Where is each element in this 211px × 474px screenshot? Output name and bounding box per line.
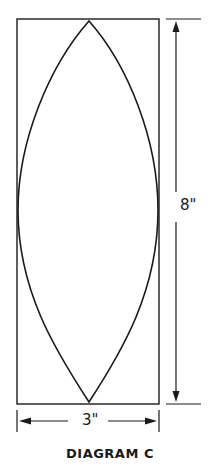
arrow-up-icon: [173, 21, 180, 32]
pointed-oval-shape: [18, 21, 158, 402]
bounding-rectangle: [17, 19, 159, 404]
arrow-down-icon: [173, 391, 180, 402]
diagram-figure: [0, 0, 211, 474]
height-dimension-label: 8": [180, 196, 196, 214]
diagram-caption: DIAGRAM C: [66, 446, 154, 461]
arrow-right-icon: [145, 418, 157, 425]
arrow-left-icon: [19, 418, 31, 425]
width-dimension-label: 3": [80, 411, 100, 429]
